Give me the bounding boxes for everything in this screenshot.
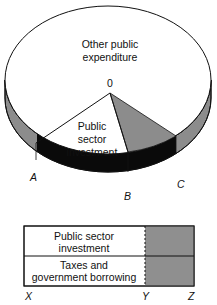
axis-z-label: Z [187,290,195,302]
axis-y-label: Y [142,290,150,302]
label-other-public-2: expenditure [83,51,138,63]
axis-x-label: X [24,290,33,302]
bar-row2-line1: Taxes and [60,259,108,271]
bar-row1-line1: Public sector [54,230,115,242]
label-investment-2: sector [78,133,107,145]
label-investment-1: Public [78,120,107,132]
point-a-label: A [29,171,37,183]
apex-label: 0 [107,77,113,89]
point-c-label: C [177,178,185,190]
bar-row2-line2: government borrowing [32,271,137,283]
label-investment-3: investment [67,146,118,158]
point-b-label: B [124,190,131,202]
pie-and-bar-diagram: Other public expenditure 0 Public sector… [0,0,217,305]
label-other-public-1: Other public [82,38,139,50]
bar-row1-line2: investment [59,242,110,254]
